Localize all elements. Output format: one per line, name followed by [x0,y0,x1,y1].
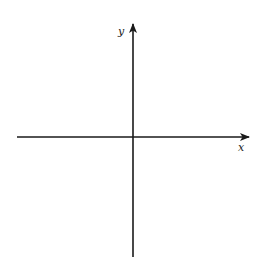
y-axis-label: y [117,25,125,38]
x-axis-label: x [238,141,245,154]
coordinate-axes-diagram: x y [0,0,260,280]
